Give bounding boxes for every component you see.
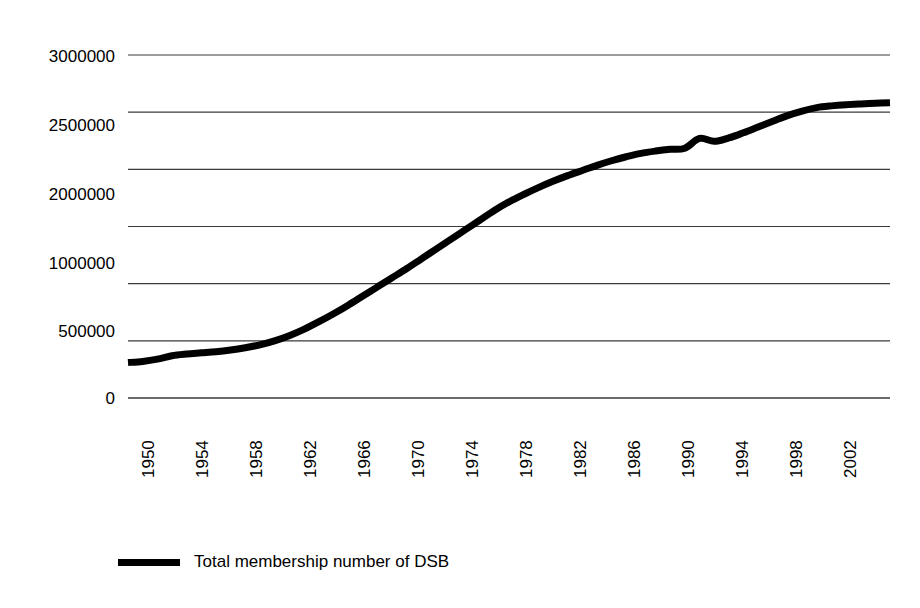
x-axis-label-1970: 1970 xyxy=(410,440,427,478)
plot-area xyxy=(0,0,920,608)
legend-swatch-line xyxy=(118,559,180,566)
x-axis-label-1974: 1974 xyxy=(464,440,481,478)
y-axis-label-500000: 500000 xyxy=(10,323,115,340)
x-axis-label-1966: 1966 xyxy=(356,440,373,478)
x-axis-label-1998: 1998 xyxy=(788,440,805,478)
chart-container: 3000000 2500000 2000000 1000000 500000 0… xyxy=(0,0,920,608)
y-axis-label-2000000: 2000000 xyxy=(10,186,115,203)
x-axis-label-1990: 1990 xyxy=(680,440,697,478)
gridlines xyxy=(128,55,890,398)
x-axis-label-1982: 1982 xyxy=(572,440,589,478)
y-axis-label-3000000: 3000000 xyxy=(10,48,115,65)
legend-label: Total membership number of DSB xyxy=(194,553,449,571)
x-axis-label-1994: 1994 xyxy=(734,440,751,478)
x-axis-label-1950: 1950 xyxy=(140,440,157,478)
x-axis-label-1986: 1986 xyxy=(626,440,643,478)
x-axis-label-1958: 1958 xyxy=(248,440,265,478)
x-axis-label-1978: 1978 xyxy=(518,440,535,478)
x-axis-label-2002: 2002 xyxy=(842,440,859,478)
x-axis-label-1954: 1954 xyxy=(194,440,211,478)
y-axis-label-1000000: 1000000 xyxy=(10,255,115,272)
x-axis-label-1962: 1962 xyxy=(302,440,319,478)
legend: Total membership number of DSB xyxy=(118,548,449,576)
y-axis-label-2500000: 2500000 xyxy=(10,117,115,134)
series-line-total-membership xyxy=(128,103,890,363)
y-axis-label-0: 0 xyxy=(10,390,115,407)
